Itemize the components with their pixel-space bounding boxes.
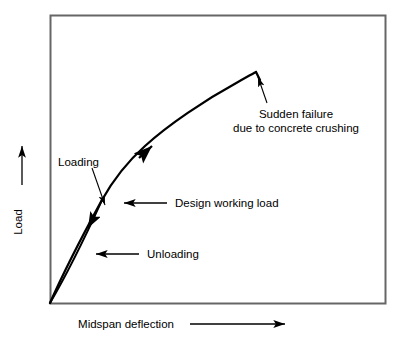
y-axis-label: Load bbox=[12, 209, 24, 235]
chart-svg: Loading Design working load Unloading Su… bbox=[0, 0, 402, 345]
design-working-load-label: Design working load bbox=[175, 197, 279, 209]
loading-annotation-label: Loading bbox=[58, 156, 99, 168]
plot-frame bbox=[51, 16, 386, 304]
unloading-annotation-label: Unloading bbox=[147, 248, 199, 260]
x-axis-label: Midspan deflection bbox=[78, 318, 174, 330]
sudden-failure-label-line1: Sudden failure bbox=[259, 108, 333, 120]
sudden-failure-label-line2: due to concrete crushing bbox=[233, 122, 359, 134]
load-deflection-chart-figure: Loading Design working load Unloading Su… bbox=[0, 0, 402, 345]
